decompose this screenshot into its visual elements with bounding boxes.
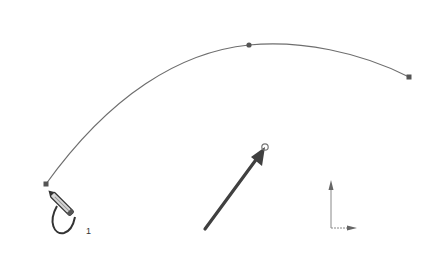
spline-end-point[interactable] xyxy=(407,75,412,80)
direction-arrow-icon xyxy=(205,144,268,229)
pencil-spline-icon xyxy=(46,188,75,233)
spline-start-point[interactable] xyxy=(44,182,49,187)
spline-mid-point[interactable] xyxy=(246,42,251,47)
sketch-canvas[interactable] xyxy=(0,0,433,273)
spline-curve[interactable] xyxy=(46,44,409,184)
origin-axes-icon xyxy=(329,180,358,231)
cursor-counter-label: 1 xyxy=(86,227,91,236)
